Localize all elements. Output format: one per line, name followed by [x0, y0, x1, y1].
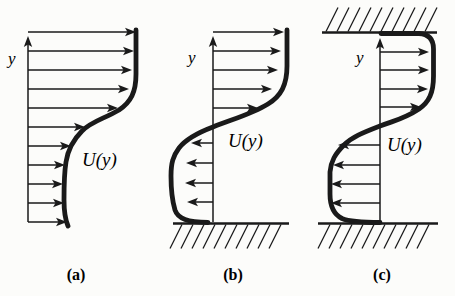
figure-shear-flow-profiles: y U(y) (a) y U(y) (b) y U(y) (c): [0, 0, 455, 296]
wall-hatch-line: [340, 225, 352, 249]
wall-hatch-line: [348, 8, 360, 32]
panel-c-axis-label: y: [354, 48, 364, 67]
wall-hatch-line: [403, 8, 415, 32]
wall-hatch-line: [337, 8, 349, 32]
wall-hatch-line: [225, 225, 237, 249]
panel-c-caption: (c): [373, 266, 391, 284]
wall-hatch-line: [373, 225, 385, 249]
wall-hatch-line: [318, 225, 330, 249]
panel-a-profile-label: U(y): [82, 149, 117, 171]
wall-hatch-line: [381, 8, 393, 32]
panel-b-caption: (b): [223, 266, 243, 284]
wall-hatch-line: [181, 225, 193, 249]
wall-hatch-line: [362, 225, 374, 249]
wall-hatch-line: [359, 8, 371, 32]
panel-c-profile-label: U(y): [387, 134, 422, 156]
wall-hatch-line: [395, 225, 407, 249]
panel-a-geometry: [24, 28, 136, 226]
wall-hatch-line: [425, 8, 437, 32]
wall-hatch-line: [203, 225, 215, 249]
wall-hatch-line: [326, 8, 338, 32]
wall-hatch-line: [414, 8, 426, 32]
wall-hatch-line: [192, 225, 204, 249]
wall-hatch-line: [370, 8, 382, 32]
wall-hatch-line: [406, 225, 418, 249]
wall-hatch-line: [392, 8, 404, 32]
panel-b-profile-label: U(y): [228, 130, 263, 152]
velocity-profile-curve: [330, 34, 434, 223]
wall-hatch-line: [236, 225, 248, 249]
wall-hatch-line: [417, 225, 429, 249]
wall-hatch-line: [351, 225, 363, 249]
wall-hatch-line: [384, 225, 396, 249]
velocity-profile-curve: [64, 30, 136, 226]
panel-c-geometry: [318, 8, 438, 249]
panel-a-caption: (a): [67, 266, 86, 284]
wall-hatch-line: [329, 225, 341, 249]
wall-hatch-line: [214, 225, 226, 249]
figure-canvas: y U(y) (a) y U(y) (b) y U(y) (c): [0, 0, 455, 296]
wall-hatch-line: [258, 225, 270, 249]
wall-hatch-line: [170, 225, 182, 249]
wall-hatch-line: [269, 225, 281, 249]
panel-b-axis-label: y: [186, 48, 196, 67]
wall-hatch-line: [247, 225, 259, 249]
panel-a-axis-label: y: [6, 49, 16, 68]
